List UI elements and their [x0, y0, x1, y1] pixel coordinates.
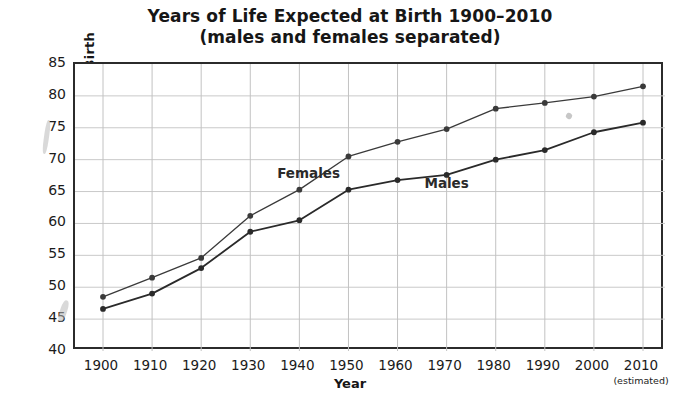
x-tick-note: (estimated): [601, 375, 681, 386]
data-point: [542, 100, 548, 106]
series-label-females: Females: [277, 165, 340, 181]
x-tick-label: 2010: [611, 358, 671, 372]
data-series-layer: [75, 64, 665, 351]
y-tick-label: 60: [32, 214, 66, 228]
data-point: [198, 255, 204, 261]
data-point: [591, 129, 597, 135]
data-point: [591, 94, 597, 100]
data-point: [247, 213, 253, 219]
data-point: [640, 120, 646, 126]
data-point: [100, 294, 106, 300]
data-point: [296, 217, 302, 223]
page-title: Years of Life Expected at Birth 1900–201…: [0, 6, 700, 27]
data-point: [296, 187, 302, 193]
series-line: [103, 123, 643, 309]
y-tick-label: 50: [32, 278, 66, 292]
data-point: [640, 83, 646, 89]
chart-title-block: Years of Life Expected at Birth 1900–201…: [0, 6, 700, 48]
data-point: [444, 126, 450, 132]
data-point: [149, 275, 155, 281]
plot-area: [73, 62, 663, 349]
data-point: [542, 147, 548, 153]
y-tick-label: 40: [32, 342, 66, 356]
series-line: [103, 86, 643, 296]
data-point: [493, 157, 499, 163]
data-point: [346, 154, 352, 160]
y-tick-label: 65: [32, 183, 66, 197]
y-tick-label: 70: [32, 151, 66, 165]
series-label-males: Males: [424, 175, 468, 191]
data-point: [247, 229, 253, 235]
x-axis-title: Year: [0, 376, 700, 391]
page-subtitle: (males and females separated): [0, 27, 700, 48]
data-point: [346, 187, 352, 193]
chart-page: Years of Life Expected at Birth 1900–201…: [0, 0, 700, 409]
y-tick-label: 85: [32, 55, 66, 69]
data-point: [493, 106, 499, 112]
data-point: [149, 291, 155, 297]
series-females: [100, 83, 646, 299]
data-point: [100, 306, 106, 312]
data-point: [395, 177, 401, 183]
data-point: [198, 265, 204, 271]
data-point: [395, 139, 401, 145]
y-tick-label: 80: [32, 87, 66, 101]
scan-artifact: [57, 299, 70, 322]
y-tick-label: 55: [32, 246, 66, 260]
